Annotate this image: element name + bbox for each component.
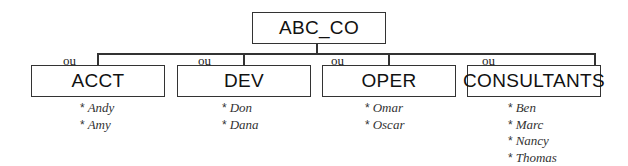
org-chart: ABC_CO ou ou ou ou ACCT DEV OPER CONSULT… [0, 0, 628, 165]
member-item: *Ben [508, 100, 557, 117]
bullet-icon: * [508, 151, 513, 165]
member-item: *Thomas [508, 150, 557, 166]
dept-node-label: CONSULTANTS [463, 70, 605, 92]
dept-node-acct: ACCT [31, 65, 165, 97]
member-name: Dana [230, 117, 259, 132]
member-item: *Don [222, 100, 259, 117]
member-item: *Omar [365, 100, 404, 117]
bullet-icon: * [508, 101, 513, 115]
bullet-icon: * [508, 118, 513, 132]
member-list-consultants: *Ben *Marc *Nancy *Thomas [508, 100, 557, 165]
member-list-dev: *Don *Dana [222, 100, 259, 133]
member-name: Don [230, 100, 252, 115]
bullet-icon: * [80, 118, 85, 132]
member-item: *Dana [222, 117, 259, 134]
member-list-acct: *Andy *Amy [80, 100, 114, 133]
member-item: *Andy [80, 100, 114, 117]
member-item: *Marc [508, 117, 557, 134]
dept-node-dev: DEV [177, 65, 311, 97]
member-name: Nancy [516, 133, 549, 148]
bullet-icon: * [222, 118, 227, 132]
bullet-icon: * [365, 118, 370, 132]
member-item: *Amy [80, 117, 114, 134]
horizontal-bus-connector [97, 53, 595, 55]
dept-node-consultants: CONSULTANTS [467, 65, 601, 97]
dept-node-oper: OPER [322, 65, 456, 97]
bullet-icon: * [222, 101, 227, 115]
member-name: Thomas [516, 150, 557, 165]
member-list-oper: *Omar *Oscar [365, 100, 404, 133]
member-name: Omar [373, 100, 403, 115]
dept-node-label: OPER [361, 70, 416, 92]
member-item: *Oscar [365, 117, 404, 134]
root-node-label: ABC_CO [279, 17, 359, 39]
member-name: Oscar [373, 117, 405, 132]
member-name: Andy [88, 100, 115, 115]
member-name: Ben [516, 100, 536, 115]
root-node-abc-co: ABC_CO [252, 12, 386, 44]
dept-node-label: DEV [224, 70, 264, 92]
member-item: *Nancy [508, 133, 557, 150]
bullet-icon: * [508, 134, 513, 148]
member-name: Marc [516, 117, 544, 132]
bullet-icon: * [365, 101, 370, 115]
member-name: Amy [88, 117, 111, 132]
dept-node-label: ACCT [72, 70, 125, 92]
bullet-icon: * [80, 101, 85, 115]
